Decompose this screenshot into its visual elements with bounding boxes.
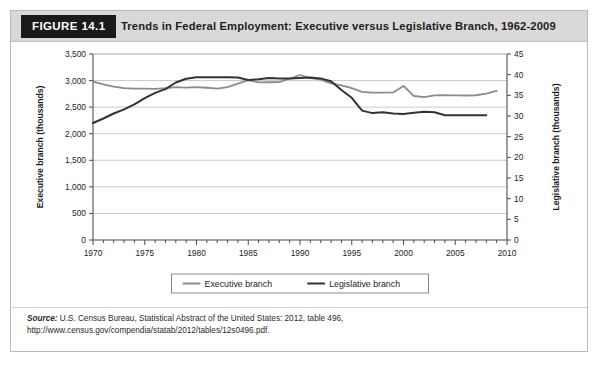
source-divider — [11, 307, 587, 308]
svg-text:0: 0 — [514, 235, 519, 245]
chart-legend: Executive branchLegislative branch — [172, 274, 429, 293]
svg-text:3,000: 3,000 — [65, 76, 86, 86]
y-axis-title-left: Executive branch (thousands) — [35, 86, 45, 209]
axis-titles: Executive branch (thousands)Legislative … — [35, 83, 561, 210]
svg-text:2,000: 2,000 — [65, 129, 86, 139]
svg-text:500: 500 — [72, 208, 86, 218]
source-label: Source: — [27, 314, 57, 323]
svg-text:1,000: 1,000 — [65, 182, 86, 192]
svg-text:2000: 2000 — [394, 248, 413, 258]
svg-text:1985: 1985 — [239, 248, 258, 258]
data-series — [93, 75, 497, 123]
legend-label-executive: Executive branch — [205, 279, 273, 289]
svg-text:10: 10 — [514, 194, 524, 204]
svg-text:35: 35 — [514, 90, 524, 100]
figure-number-badge: FIGURE 14.1 — [21, 15, 116, 38]
line-chart: 05001,0001,5002,0002,5003,0003,500051015… — [11, 42, 589, 307]
svg-text:25: 25 — [514, 132, 524, 142]
figure-card: FIGURE 14.1 Trends in Federal Employment… — [10, 10, 588, 352]
svg-text:5: 5 — [514, 214, 519, 224]
svg-text:15: 15 — [514, 173, 524, 183]
svg-text:20: 20 — [514, 152, 524, 162]
svg-text:2010: 2010 — [498, 248, 517, 258]
y-axis-title-right: Legislative branch (thousands) — [551, 83, 561, 210]
figure-header: FIGURE 14.1 Trends in Federal Employment… — [11, 11, 587, 42]
series-line-legislative — [93, 77, 486, 123]
legend-label-legislative: Legislative branch — [329, 279, 400, 289]
figure-title: Trends in Federal Employment: Executive … — [121, 11, 556, 42]
chart-plot-area: 05001,0001,5002,0002,5003,0003,500051015… — [11, 42, 587, 307]
svg-text:1995: 1995 — [342, 248, 361, 258]
svg-text:45: 45 — [514, 49, 524, 59]
source-citation: U.S. Census Bureau, Statistical Abstract… — [27, 314, 343, 335]
svg-text:30: 30 — [514, 111, 524, 121]
svg-text:1980: 1980 — [187, 248, 206, 258]
axis-ticks — [89, 54, 511, 245]
svg-text:1,500: 1,500 — [65, 155, 86, 165]
svg-text:1975: 1975 — [135, 248, 154, 258]
svg-text:40: 40 — [514, 70, 524, 80]
svg-text:0: 0 — [81, 235, 86, 245]
svg-text:2005: 2005 — [446, 248, 465, 258]
svg-text:1990: 1990 — [291, 248, 310, 258]
svg-text:2,500: 2,500 — [65, 102, 86, 112]
svg-text:1970: 1970 — [84, 248, 103, 258]
source-note: Source: U.S. Census Bureau, Statistical … — [27, 313, 575, 337]
axis-lines — [93, 54, 507, 240]
svg-text:3,500: 3,500 — [65, 49, 86, 59]
